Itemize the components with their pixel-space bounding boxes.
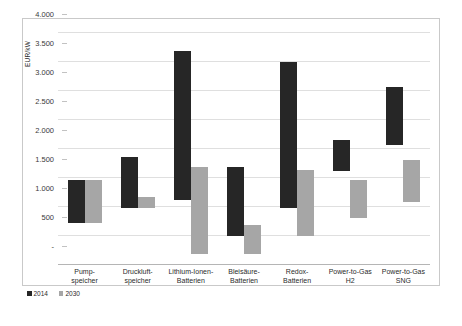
x-axis-category-labels: Pump- speicherDruckluft- speicherLithium… <box>58 268 430 296</box>
legend-label: 2014 <box>34 290 48 297</box>
legend-item-2030[interactable]: 2030 <box>59 290 80 297</box>
chart-plot-area <box>58 32 430 264</box>
gridline <box>58 177 430 178</box>
legend-item-2014[interactable]: 2014 <box>27 290 48 297</box>
y-axis-tick-label: - <box>14 242 54 251</box>
bar-2030-2 <box>191 167 208 254</box>
legend-swatch-icon <box>59 291 64 296</box>
bar-2014-5 <box>333 140 350 171</box>
bar-2030-1 <box>138 197 155 207</box>
legend-swatch-icon <box>27 291 32 296</box>
x-axis-category-label: Power-to-Gas SNG <box>371 268 436 285</box>
chart-legend: 20142030 <box>27 290 80 297</box>
bar-2030-0 <box>85 180 102 224</box>
y-axis-tick-label: 2.000 <box>14 126 54 135</box>
bar-2014-0 <box>68 180 85 224</box>
y-axis-tick-label: 1.000 <box>14 184 54 193</box>
y-axis-tick-label: 3.500 <box>14 39 54 48</box>
gridline <box>58 90 430 91</box>
y-axis-tick-label: 3.000 <box>14 68 54 77</box>
gridline <box>58 61 430 62</box>
legend-label: 2030 <box>65 290 79 297</box>
gridline <box>58 148 430 149</box>
y-axis-tick-mark <box>62 14 67 15</box>
gridline <box>58 206 430 207</box>
y-axis-tick-label: 4.000 <box>14 10 54 19</box>
bar-2030-3 <box>244 225 261 254</box>
y-axis-tick-labels: -5001.0001.5002.0002.5003.0003.5004.000 <box>10 0 54 268</box>
gridline <box>58 119 430 120</box>
y-axis-tick-label: 500 <box>14 213 54 222</box>
x-axis-line <box>58 264 430 265</box>
bar-2030-6 <box>403 160 420 202</box>
gridline <box>58 32 430 33</box>
y-axis-tick-label: 2.500 <box>14 97 54 106</box>
bar-2014-1 <box>121 157 138 208</box>
y-axis-tick-label: 1.500 <box>14 155 54 164</box>
bar-2014-3 <box>227 167 244 237</box>
bar-2030-4 <box>297 170 314 236</box>
bar-2014-4 <box>280 62 297 208</box>
bar-2014-6 <box>386 87 403 145</box>
bar-2014-2 <box>174 51 191 201</box>
bar-2030-5 <box>350 180 367 218</box>
